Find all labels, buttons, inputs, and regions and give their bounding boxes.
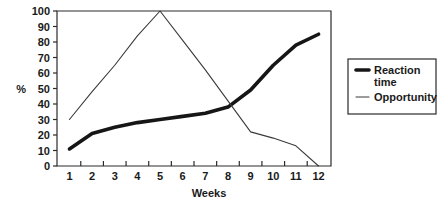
x-axis-tick-labels: 123456789101112: [66, 170, 324, 182]
data-series-group: [69, 11, 318, 166]
x-tick-label: 4: [134, 170, 141, 182]
x-tick-label: 12: [312, 170, 324, 182]
y-axis-tick-labels: 0102030405060708090100: [32, 5, 50, 172]
x-tick-label: 3: [112, 170, 118, 182]
x-tick-label: 11: [290, 170, 302, 182]
y-tick-label: 60: [38, 67, 50, 79]
x-tick-label: 2: [89, 170, 95, 182]
x-tick-label: 9: [248, 170, 254, 182]
y-tick-label: 70: [38, 52, 50, 64]
line-chart: 0102030405060708090100 123456789101112 %…: [0, 0, 446, 210]
legend-label: Opportunity: [374, 91, 438, 103]
y-tick-label: 30: [38, 114, 50, 126]
y-tick-label: 90: [38, 21, 50, 33]
y-tick-label: 50: [38, 83, 50, 95]
legend-label: Reaction: [374, 64, 421, 76]
x-tick-label: 1: [66, 170, 72, 182]
y-tick-label: 80: [38, 36, 50, 48]
legend-label-continued: time: [374, 76, 397, 88]
y-tick-label: 100: [32, 5, 50, 17]
series-line-opportunity: [69, 11, 318, 166]
y-tick-label: 0: [44, 160, 50, 172]
plot-frame-border: [57, 11, 331, 166]
x-tick-label: 8: [225, 170, 231, 182]
y-tick-label: 20: [38, 129, 50, 141]
x-axis-ticks: [81, 161, 307, 166]
x-tick-label: 10: [267, 170, 279, 182]
y-tick-label: 10: [38, 145, 50, 157]
y-axis-title: %: [16, 83, 26, 95]
series-line-reaction-time: [69, 34, 318, 149]
y-tick-label: 40: [38, 98, 50, 110]
x-tick-label: 5: [157, 170, 163, 182]
plot-frame: [57, 11, 331, 166]
x-tick-label: 7: [202, 170, 208, 182]
x-tick-label: 6: [180, 170, 186, 182]
legend: ReactiontimeOpportunity: [348, 59, 438, 114]
x-axis-title: Weeks: [192, 187, 227, 199]
chart-container: 0102030405060708090100 123456789101112 %…: [0, 0, 446, 210]
